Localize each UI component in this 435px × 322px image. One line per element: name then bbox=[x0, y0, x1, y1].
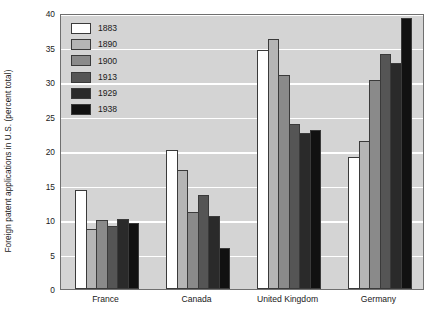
y-axis-tick-label: 25 bbox=[31, 113, 55, 123]
legend-swatch-1913 bbox=[71, 72, 91, 83]
legend-swatch-1890 bbox=[71, 39, 91, 50]
y-axis-tick-label: 15 bbox=[31, 182, 55, 192]
y-axis-tick-label: 5 bbox=[31, 251, 55, 261]
chart-figure: Foreign patent applications in U.S. (per… bbox=[0, 0, 435, 322]
plot-area: 188318901900191319291938 bbox=[60, 14, 424, 290]
y-axis-tick-label: 20 bbox=[31, 147, 55, 157]
bar-group-united-kingdom bbox=[243, 15, 334, 289]
y-axis-tick-label: 10 bbox=[31, 216, 55, 226]
legend-label-1938: 1938 bbox=[98, 105, 117, 114]
x-axis-tick-labels: FranceCanadaUnited KingdomGermany bbox=[60, 294, 424, 314]
legend-item-1929: 1929 bbox=[71, 88, 117, 99]
legend-swatch-1900 bbox=[71, 55, 91, 66]
legend-label-1929: 1929 bbox=[98, 89, 117, 98]
y-axis-tick-labels: 0510152025303540 bbox=[0, 14, 60, 290]
legend-item-1913: 1913 bbox=[71, 72, 117, 83]
legend-swatch-1929 bbox=[71, 88, 91, 99]
x-axis-tick-label: United Kingdom bbox=[257, 294, 318, 304]
x-axis-tick-label: France bbox=[92, 294, 119, 304]
legend-label-1913: 1913 bbox=[98, 73, 117, 82]
y-axis-tick-label: 40 bbox=[31, 9, 55, 19]
legend-item-1883: 1883 bbox=[71, 23, 117, 34]
bar-group-germany bbox=[334, 15, 424, 289]
x-axis-tick-label: Germany bbox=[361, 294, 396, 304]
bar-1938-germany bbox=[401, 18, 413, 289]
legend-item-1900: 1900 bbox=[71, 55, 117, 66]
legend-item-1938: 1938 bbox=[71, 104, 117, 115]
legend-label-1900: 1900 bbox=[98, 57, 117, 66]
legend-swatch-1883 bbox=[71, 23, 91, 34]
y-axis-tick-label: 0 bbox=[31, 285, 55, 295]
bar-1938-france bbox=[128, 223, 140, 289]
legend-swatch-1938 bbox=[71, 104, 91, 115]
y-axis-tick-label: 30 bbox=[31, 78, 55, 88]
legend-label-1883: 1883 bbox=[98, 24, 117, 33]
bar-group-canada bbox=[152, 15, 243, 289]
legend: 188318901900191319291938 bbox=[71, 23, 117, 115]
x-axis-tick-label: Canada bbox=[181, 294, 211, 304]
legend-label-1890: 1890 bbox=[98, 40, 117, 49]
bar-1938-united-kingdom bbox=[310, 130, 322, 289]
legend-item-1890: 1890 bbox=[71, 39, 117, 50]
y-axis-tick-label: 35 bbox=[31, 44, 55, 54]
bar-1938-canada bbox=[219, 248, 231, 289]
